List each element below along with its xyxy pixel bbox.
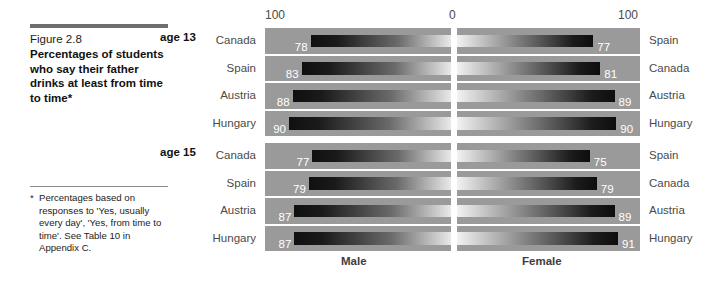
bar-value-female: 81: [604, 66, 617, 83]
country-label-right: Canada: [649, 175, 689, 192]
bar-track-male: 78Canada: [265, 28, 451, 54]
footnote-marker: *: [30, 192, 39, 255]
country-label-right: Austria: [649, 202, 685, 219]
figure-caption-block: Figure 2.8 Percentages of students who s…: [30, 24, 170, 105]
group-label-age-15: age 15: [160, 146, 196, 158]
bar-value-male: 83: [286, 66, 299, 83]
country-label-right: Hungary: [649, 230, 692, 247]
bar-value-female: 75: [594, 154, 607, 171]
bar-female: 89: [457, 90, 615, 103]
bar-value-male: 88: [277, 94, 290, 111]
bar-female: 77: [457, 35, 593, 48]
country-label-left: Austria: [220, 87, 256, 104]
country-label-right: Spain: [649, 32, 678, 49]
bar-value-female: 89: [619, 209, 632, 226]
bar-value-female: 77: [597, 39, 610, 56]
legend-label-female: Female: [522, 255, 562, 267]
figure-title: Percentages of students who say their fa…: [30, 47, 170, 105]
table-row: 90Hungary90Hungary: [265, 111, 640, 137]
caption-rule: [30, 24, 168, 28]
country-label-left: Spain: [227, 60, 256, 77]
bar-track-female: 91Hungary: [457, 226, 640, 252]
bar-female: 75: [457, 150, 590, 163]
figure-footnote-block: * Percentages based on responses to 'Yes…: [30, 186, 172, 255]
country-label-left: Hungary: [213, 230, 256, 247]
bar-track-male: 79Spain: [265, 171, 451, 197]
legend-label-male: Male: [341, 255, 367, 267]
chart-group-age-15: 77Canada75Spain79Spain79Canada87Austria8…: [265, 143, 640, 251]
bar-male: 88: [293, 90, 451, 103]
table-row: 87Hungary91Hungary: [265, 226, 640, 252]
bar-track-female: 75Spain: [457, 143, 640, 169]
country-label-left: Austria: [220, 202, 256, 219]
table-row: 77Canada75Spain: [265, 143, 640, 169]
bar-track-female: 90Hungary: [457, 111, 640, 137]
bar-value-female: 90: [620, 121, 633, 138]
figure-number: Figure 2.8: [30, 32, 170, 46]
table-row: 78Canada77Spain: [265, 28, 640, 54]
bar-male: 79: [309, 177, 451, 190]
bar-female: 89: [457, 205, 615, 218]
country-label-right: Spain: [649, 147, 678, 164]
bar-female: 91: [457, 232, 618, 245]
bar-female: 79: [457, 177, 597, 190]
bar-value-male: 87: [279, 236, 292, 253]
bar-female: 81: [457, 62, 600, 75]
country-label-left: Canada: [216, 147, 256, 164]
bar-male: 90: [289, 117, 451, 130]
bar-female: 90: [457, 117, 616, 130]
bar-track-female: 89Austria: [457, 198, 640, 224]
bar-value-female: 91: [622, 236, 635, 253]
table-row: 88Austria89Austria: [265, 83, 640, 109]
country-label-right: Hungary: [649, 115, 692, 132]
bar-value-male: 87: [279, 209, 292, 226]
group-label-age-13: age 13: [160, 31, 196, 43]
table-row: 79Spain79Canada: [265, 171, 640, 197]
axis-tick-right-100: 100: [618, 8, 638, 22]
bar-track-female: 81Canada: [457, 56, 640, 82]
footnote-rule: [30, 186, 168, 187]
table-row: 87Austria89Austria: [265, 198, 640, 224]
bar-male: 78: [311, 35, 451, 48]
bar-track-male: 87Hungary: [265, 226, 451, 252]
bar-value-male: 79: [293, 181, 306, 198]
bar-track-male: 77Canada: [265, 143, 451, 169]
bar-value-female: 79: [601, 181, 614, 198]
country-label-right: Austria: [649, 87, 685, 104]
bar-track-male: 90Hungary: [265, 111, 451, 137]
bar-male: 77: [312, 150, 451, 163]
bar-track-female: 77Spain: [457, 28, 640, 54]
table-row: 83Spain81Canada: [265, 56, 640, 82]
axis-tick-center-0: 0: [449, 8, 456, 22]
bar-male: 83: [302, 62, 451, 75]
bar-track-male: 87Austria: [265, 198, 451, 224]
country-label-left: Hungary: [213, 115, 256, 132]
footnote-body: * Percentages based on responses to 'Yes…: [30, 192, 172, 255]
bar-value-male: 90: [273, 121, 286, 138]
bar-value-male: 78: [295, 39, 308, 56]
footnote-text: Percentages based on responses to 'Yes, …: [39, 192, 172, 255]
country-label-right: Canada: [649, 60, 689, 77]
bar-track-male: 83Spain: [265, 56, 451, 82]
axis-tick-row: 100 0 100: [0, 8, 727, 24]
bar-male: 87: [294, 205, 451, 218]
country-label-left: Spain: [227, 175, 256, 192]
bar-track-male: 88Austria: [265, 83, 451, 109]
country-label-left: Canada: [216, 32, 256, 49]
chart-group-age-13: 78Canada77Spain83Spain81Canada88Austria8…: [265, 28, 640, 136]
bar-male: 87: [294, 232, 451, 245]
bar-value-male: 77: [297, 154, 310, 171]
axis-tick-left-100: 100: [265, 8, 285, 22]
bar-value-female: 89: [619, 94, 632, 111]
bar-track-female: 79Canada: [457, 171, 640, 197]
bar-track-female: 89Austria: [457, 83, 640, 109]
